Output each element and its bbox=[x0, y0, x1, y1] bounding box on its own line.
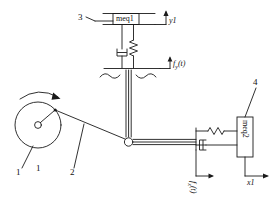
vertical-damper-group bbox=[117, 25, 127, 69]
callout-2-label: 2 bbox=[70, 168, 75, 177]
fx-arrow-head bbox=[209, 174, 215, 179]
ground-bar-group bbox=[100, 69, 160, 79]
x1-arrow-head bbox=[263, 174, 269, 179]
wavy-break-left bbox=[100, 74, 120, 79]
x1-label: x1 bbox=[247, 179, 255, 187]
wavy-break-right bbox=[136, 74, 156, 79]
mechanical-diagram: 3 meq1 y1 fy(t) 1 1 2 4 meq2 fx(t) x1 bbox=[0, 0, 277, 211]
callout-2-leader bbox=[74, 124, 84, 168]
pin-joint-circle bbox=[124, 138, 132, 146]
y1-label: y1 bbox=[169, 17, 177, 25]
schematic-drawing bbox=[0, 0, 277, 211]
hspring-coil bbox=[208, 128, 224, 135]
fy-label: fy(t) bbox=[173, 60, 185, 70]
connecting-rod-line bbox=[55, 110, 128, 141]
rotation-arrow-head bbox=[52, 93, 61, 100]
vertical-rod-group bbox=[126, 70, 131, 137]
horizontal-damper-group bbox=[196, 140, 237, 150]
callout-1-disc-leader bbox=[22, 146, 33, 168]
connecting-rod-group bbox=[55, 110, 128, 168]
crank-disc-group bbox=[15, 102, 61, 168]
x1-arrow-group bbox=[245, 157, 269, 178]
rotation-arrow-group bbox=[20, 92, 61, 100]
callout-3-leader-tail bbox=[86, 17, 95, 21]
horizontal-spring-group bbox=[196, 128, 237, 135]
fy-arrow-head bbox=[168, 56, 173, 61]
fx-label: fx(t) bbox=[187, 181, 197, 193]
callout-1-rod-label: 1 bbox=[36, 164, 41, 173]
crank-radius-line bbox=[40, 111, 54, 123]
fx-label-arg: (t) bbox=[189, 186, 198, 194]
vspring-coil bbox=[130, 40, 138, 56]
callout-1-disc-label: 1 bbox=[16, 168, 21, 177]
fy-label-arg: (t) bbox=[178, 59, 186, 68]
callout-4-label: 4 bbox=[253, 78, 258, 87]
callout-4-leader bbox=[245, 88, 256, 117]
meq1-label: meq1 bbox=[116, 15, 134, 23]
callout-3-label: 3 bbox=[78, 13, 83, 22]
horizontal-rod-group bbox=[133, 139, 196, 144]
fx-arrow-group bbox=[196, 174, 214, 179]
fy-arrow-group bbox=[160, 56, 172, 68]
y1-arrow-group bbox=[155, 10, 169, 24]
meq2-label: meq2 bbox=[241, 120, 249, 138]
y1-arrow-head bbox=[163, 10, 168, 16]
vertical-spring-group bbox=[130, 25, 138, 69]
